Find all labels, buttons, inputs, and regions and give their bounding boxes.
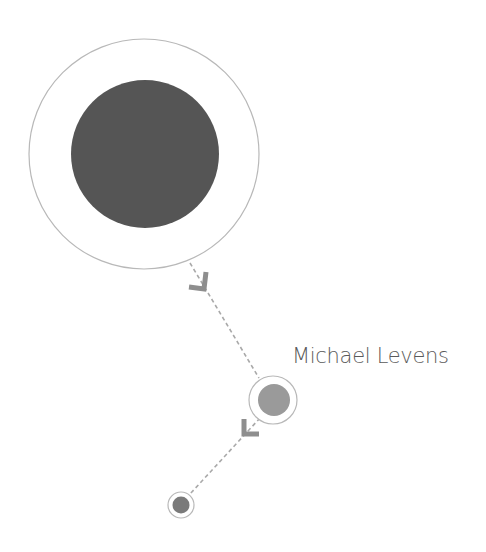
path-diagram <box>0 0 486 552</box>
edge-medium-to-small <box>190 418 260 494</box>
node-large[interactable] <box>29 39 259 269</box>
node-medium[interactable] <box>249 376 297 424</box>
node-small[interactable] <box>168 492 194 518</box>
arrow-down-left-icon <box>244 419 259 434</box>
node-medium-fill <box>258 384 290 416</box>
node-small-fill <box>173 497 190 514</box>
arrow-down-right-icon <box>189 272 206 289</box>
node-medium-label: Michael Levens <box>292 344 449 368</box>
edge-large-to-medium <box>190 263 259 378</box>
diagram-canvas: Michael Levens <box>0 0 486 552</box>
node-large-fill <box>71 80 219 228</box>
